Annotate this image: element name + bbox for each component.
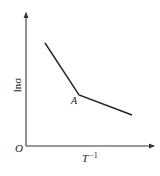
data-line	[45, 43, 132, 115]
plot-area	[0, 0, 160, 176]
x-axis-label-base: T	[82, 152, 88, 164]
x-axis-label-exponent: −1	[89, 151, 98, 160]
point-a-label: A	[71, 95, 77, 106]
origin-label: O	[15, 142, 23, 154]
x-axis-label: T−1	[82, 151, 98, 164]
chart-figure: lnσ T−1 O A	[0, 0, 160, 176]
y-axis-label: lnσ	[11, 74, 23, 96]
